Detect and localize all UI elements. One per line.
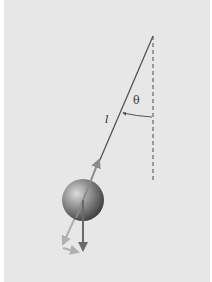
angle-arc (123, 113, 152, 117)
angle-label: θ (133, 94, 140, 107)
pendulum-diagram: θ l (0, 0, 212, 282)
weight-perpendicular-component-arrow (63, 248, 78, 252)
length-label: l (105, 113, 109, 126)
pendulum-string (99, 36, 153, 162)
